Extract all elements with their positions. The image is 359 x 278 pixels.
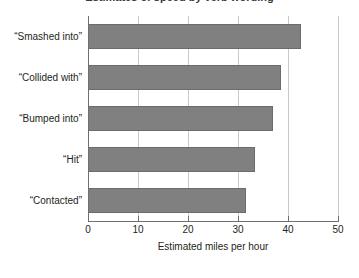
bar-row	[88, 180, 338, 221]
x-tick-mark	[338, 216, 339, 222]
x-axis-line	[88, 221, 339, 222]
x-tick-mark	[288, 216, 289, 222]
x-tick-label: 10	[118, 224, 158, 235]
y-axis-line	[88, 16, 89, 222]
bar-row	[88, 57, 338, 98]
x-tick-label: 40	[268, 224, 308, 235]
x-tick-label: 30	[218, 224, 258, 235]
bar-series	[88, 16, 338, 221]
x-tick-mark	[138, 216, 139, 222]
x-tick-mark	[238, 216, 239, 222]
bar-chart-figure: Estimates of speed by verb wording 01020…	[0, 0, 359, 278]
category-label: “Smashed into”	[0, 31, 82, 42]
bar	[88, 188, 246, 213]
bar	[88, 65, 281, 90]
x-tick-label: 0	[68, 224, 108, 235]
x-tick-mark	[188, 216, 189, 222]
bar-row	[88, 139, 338, 180]
category-label: “Contacted”	[0, 195, 82, 206]
category-label: “Hit”	[0, 154, 82, 165]
x-tick-label: 20	[168, 224, 208, 235]
category-label: “Collided with”	[0, 72, 82, 83]
bar-row	[88, 16, 338, 57]
chart-title-clipped: Estimates of speed by verb wording	[0, 0, 359, 7]
category-label: “Bumped into”	[0, 113, 82, 124]
bar-row	[88, 98, 338, 139]
plot-area	[88, 16, 338, 221]
bar	[88, 24, 301, 49]
x-tick-label: 50	[318, 224, 358, 235]
x-axis-title: Estimated miles per hour	[88, 241, 338, 252]
bar	[88, 147, 255, 172]
gridline-50	[338, 16, 339, 221]
x-tick-mark	[88, 216, 89, 222]
bar	[88, 106, 273, 131]
chart-title-text: Estimates of speed by verb wording	[0, 0, 359, 3]
